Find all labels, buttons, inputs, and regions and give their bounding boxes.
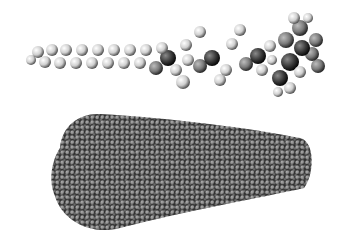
molecular-figure xyxy=(0,0,350,247)
single-molecule xyxy=(26,12,325,97)
micelle-aggregate xyxy=(51,114,311,230)
